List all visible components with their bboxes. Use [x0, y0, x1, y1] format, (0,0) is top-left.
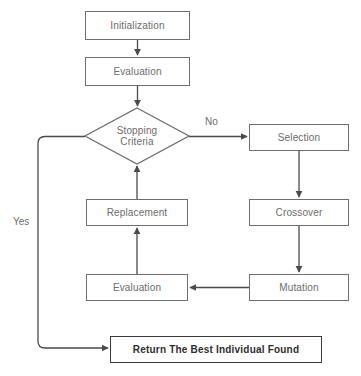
node-initialization-label: Initialization — [110, 20, 164, 31]
connector-decision-to-return — [38, 137, 108, 349]
node-stopping-criteria-label-line2: Criteria — [117, 136, 158, 147]
node-mutation-label: Mutation — [279, 282, 319, 293]
node-evaluation-bottom[interactable]: Evaluation — [86, 274, 188, 301]
node-evaluation-top-label: Evaluation — [113, 66, 161, 77]
node-selection[interactable]: Selection — [249, 124, 349, 151]
node-stopping-criteria[interactable]: Stopping Criteria — [85, 108, 189, 164]
node-evaluation-bottom-label: Evaluation — [113, 282, 161, 293]
node-return-best-individual[interactable]: Return The Best Individual Found — [110, 336, 322, 363]
node-initialization[interactable]: Initialization — [85, 11, 190, 40]
node-mutation[interactable]: Mutation — [249, 274, 349, 301]
node-return-best-individual-label: Return The Best Individual Found — [133, 344, 299, 355]
node-replacement-label: Replacement — [107, 207, 168, 218]
flowchart-canvas: Initialization Evaluation Stopping Crite… — [0, 0, 361, 376]
node-stopping-criteria-label-line1: Stopping — [117, 125, 158, 136]
node-crossover[interactable]: Crossover — [249, 199, 349, 226]
edge-label-yes: Yes — [13, 216, 29, 227]
edge-label-no: No — [205, 116, 218, 127]
node-crossover-label: Crossover — [276, 207, 323, 218]
node-replacement[interactable]: Replacement — [86, 199, 188, 226]
node-evaluation-top[interactable]: Evaluation — [85, 57, 190, 86]
node-selection-label: Selection — [278, 132, 321, 143]
node-stopping-criteria-label: Stopping Criteria — [117, 125, 158, 147]
